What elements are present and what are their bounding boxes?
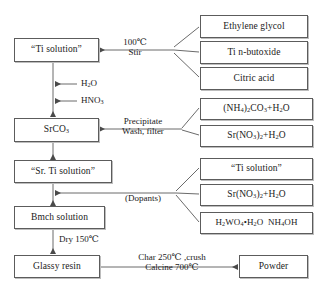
edge-label-dry-text: Dry 150℃: [59, 234, 99, 244]
node-citric-acid-label: Citric acid: [234, 74, 275, 84]
edge-label-char-crush: Char 250℃ ,crush: [116, 252, 228, 262]
edge-label-dopants-text: (Dopants): [112, 193, 174, 203]
node-srco3-label: SrCO3: [44, 125, 69, 135]
edge-label-dry: Dry 150℃: [59, 234, 99, 244]
edge-label-stir-action: Stir: [103, 47, 167, 57]
node-bmch-solution: Bmch solution: [14, 206, 105, 229]
node-sr-ti-solution: “Sr. Ti solution”: [14, 160, 112, 183]
node-ti-solution-dopant-label: “Ti solution”: [231, 164, 282, 174]
node-ti-n-butoxide: Ti n-butoxide: [200, 41, 308, 64]
edge-label-precipitate: Precipitate Wash, filter: [104, 116, 182, 137]
node-bmch-solution-label: Bmch solution: [31, 213, 88, 223]
node-ti-n-butoxide-label: Ti n-butoxide: [228, 48, 281, 58]
node-srco3: SrCO3: [14, 118, 99, 142]
node-sr-ti-solution-label: “Sr. Ti solution”: [31, 167, 95, 177]
edge-label-stir-temp: 100℃: [103, 37, 167, 47]
process-flowchart: “Ti solution” SrCO3 “Sr. Ti solution” Bm…: [0, 0, 319, 292]
edge-label-wash-filter: Wash, filter: [104, 126, 182, 136]
node-ammonium-carbonate-label: (NH4)2CO3+H2O: [223, 104, 290, 114]
node-glassy-resin-label: Glassy resin: [33, 262, 81, 272]
node-strontium-nitrate-1-label: Sr(NO3)2+H2O: [227, 131, 285, 141]
node-ti-solution-label: “Ti solution”: [31, 45, 82, 55]
node-powder: Powder: [239, 255, 308, 278]
edge-label-precipitate-line1: Precipitate: [104, 116, 182, 126]
node-ethylene-glycol: Ethylene glycol: [200, 15, 308, 38]
node-strontium-nitrate-1: Sr(NO3)2+H2O: [200, 125, 313, 147]
node-glassy-resin: Glassy resin: [14, 255, 100, 278]
edge-label-stir: 100℃ Stir: [103, 37, 167, 58]
edge-label-nitric-acid: HNO3: [81, 95, 104, 106]
node-tungstic-ammonia: H2WO4•H2O NH4OH: [200, 212, 313, 234]
node-citric-acid: Citric acid: [200, 67, 308, 90]
node-strontium-nitrate-2-label: Sr(NO3)2+H2O: [227, 190, 285, 200]
edge-label-dopants: (Dopants): [112, 193, 174, 203]
edge-label-water: H2O: [81, 78, 97, 89]
node-tungstic-ammonia-label: H2WO4•H2O NH4OH: [216, 218, 298, 227]
node-ammonium-carbonate: (NH4)2CO3+H2O: [200, 98, 313, 120]
node-ti-solution-dopant: “Ti solution”: [200, 158, 313, 180]
node-strontium-nitrate-2: Sr(NO3)2+H2O: [200, 184, 313, 206]
edge-label-calcine: Calcine 700℃: [116, 262, 228, 272]
node-ti-solution: “Ti solution”: [14, 38, 99, 62]
node-powder-label: Powder: [259, 262, 289, 272]
node-ethylene-glycol-label: Ethylene glycol: [223, 22, 284, 32]
edge-label-char-calcine: Char 250℃ ,crush Calcine 700℃: [116, 252, 228, 273]
